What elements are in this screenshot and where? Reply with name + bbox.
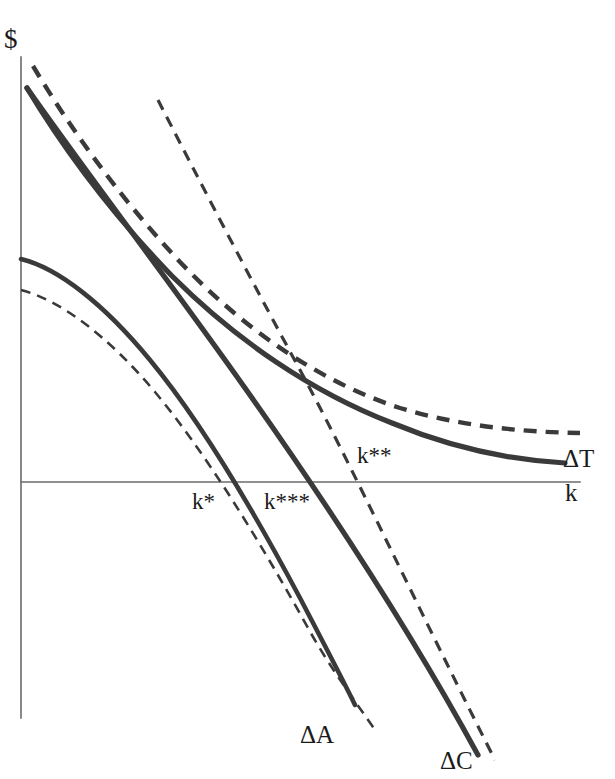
y-axis-label: $ — [4, 26, 18, 53]
curve-delta-t-dashed — [33, 66, 580, 433]
axes-group — [21, 57, 580, 718]
curve-label-delta-t: ΔT — [563, 446, 594, 471]
curve-label-delta-c: ΔC — [440, 748, 473, 773]
economics-diagram-figure: $ k ΔT ΔA ΔC k* k*** k** — [0, 0, 615, 779]
curve-delta-t-solid — [27, 88, 565, 463]
x-axis-label: k — [565, 480, 578, 505]
curve-label-delta-a: ΔA — [300, 722, 334, 747]
annotation-k-star-star: k** — [357, 444, 392, 467]
annotation-k-star-star-star: k*** — [264, 490, 310, 513]
plot-canvas — [0, 0, 615, 779]
annotation-k-star: k* — [192, 490, 215, 513]
curve-delta-c-dashed — [158, 100, 495, 760]
